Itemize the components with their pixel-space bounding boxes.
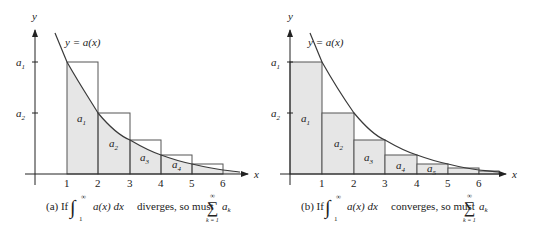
- caption-b: (b) If ∫ ∞ 1 a(x) dx converges, so must …: [301, 192, 489, 223]
- svg-text:5: 5: [189, 177, 195, 189]
- svg-text:6: 6: [220, 177, 226, 189]
- svg-text:5: 5: [445, 177, 451, 189]
- panel-b: y x y = a(x) a1 a2 1 2 3 4 5 6 a1 a2 a3 …: [271, 10, 517, 223]
- svg-text:k = 1: k = 1: [463, 217, 476, 223]
- y-axis-label: y: [287, 10, 293, 22]
- svg-text:∫: ∫: [323, 196, 332, 220]
- integral-test-figure: y x y = a(x) a1 a2 1 2 3 4 5 6 a1 a2 a3 …: [0, 0, 534, 234]
- svg-text:4: 4: [414, 177, 420, 189]
- svg-text:∫: ∫: [68, 196, 77, 220]
- svg-text:a(x) dx: a(x) dx: [347, 200, 378, 213]
- svg-text:∞: ∞: [210, 192, 215, 200]
- svg-text:(b) If: (b) If: [301, 200, 324, 213]
- y-tick-a1: a1: [16, 56, 25, 71]
- svg-text:3: 3: [382, 177, 388, 189]
- x-ticks: 1 2 3 4 5 6: [319, 177, 482, 189]
- svg-text:ak: ak: [479, 200, 489, 214]
- svg-text:2: 2: [95, 177, 101, 189]
- caption-a: (a) If ∫ ∞ 1 a(x) dx diverges, so must ∑…: [46, 192, 232, 223]
- x-axis-label: x: [511, 168, 517, 180]
- panel-a: y x y = a(x) a1 a2 1 2 3 4 5 6 a1 a2 a3 …: [16, 10, 259, 223]
- x-axis-label: x: [253, 168, 259, 180]
- svg-text:k = 1: k = 1: [206, 217, 219, 223]
- svg-text:4: 4: [158, 177, 164, 189]
- y-tick-a1: a1: [271, 56, 280, 71]
- svg-text:∞: ∞: [336, 193, 341, 201]
- svg-text:1: 1: [334, 215, 338, 223]
- curve-label: y = a(x): [307, 36, 344, 49]
- svg-text:3: 3: [127, 177, 133, 189]
- svg-text:1: 1: [319, 177, 325, 189]
- area-under-curve: [67, 62, 240, 174]
- svg-text:∑: ∑: [464, 199, 475, 217]
- svg-text:∞: ∞: [81, 193, 86, 201]
- curve-label: y = a(x): [64, 36, 101, 49]
- y-tick-a2: a2: [271, 107, 281, 122]
- svg-text:(a) If: (a) If: [46, 200, 69, 213]
- svg-text:ak: ak: [222, 200, 232, 214]
- lower-rectangles: [290, 62, 499, 174]
- y-axis-label: y: [31, 10, 37, 22]
- svg-text:2: 2: [351, 177, 357, 189]
- svg-text:diverges, so must: diverges, so must: [137, 200, 214, 212]
- svg-text:∞: ∞: [467, 192, 472, 200]
- svg-text:1: 1: [64, 177, 70, 189]
- svg-text:6: 6: [476, 177, 482, 189]
- svg-text:∑: ∑: [207, 199, 218, 217]
- svg-text:converges, so must: converges, so must: [391, 200, 475, 212]
- svg-text:1: 1: [79, 215, 83, 223]
- y-tick-a2: a2: [16, 107, 26, 122]
- svg-text:a(x) dx: a(x) dx: [93, 200, 124, 213]
- x-ticks: 1 2 3 4 5 6: [64, 177, 226, 189]
